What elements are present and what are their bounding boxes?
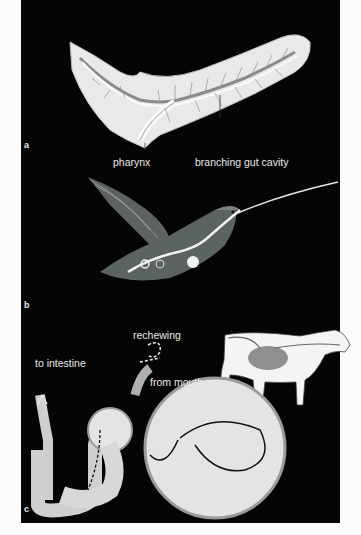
flatworm-illustration [70,35,310,150]
panel-tag-a: a [24,141,29,150]
label-rechewing: rechewing [133,330,181,341]
figure-artwork [0,0,361,535]
label-branching-gut-cavity: branching gut cavity [195,157,288,168]
label-pharynx: pharynx [113,157,150,168]
label-to-intestine: to intestine [35,358,86,369]
panel-tag-c: c [24,505,29,514]
hummingbird-illustration [88,177,338,280]
panel-tag-b: b [24,301,30,310]
label-from-mouth: from mouth [150,377,203,388]
